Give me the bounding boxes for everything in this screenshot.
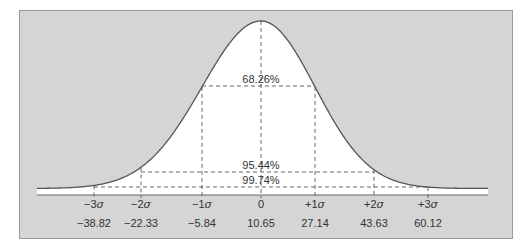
- value-tick-label: −38.82: [77, 217, 111, 229]
- sigma-tick-label: 0: [258, 198, 264, 210]
- value-tick-label: 60.12: [414, 217, 442, 229]
- value-tick-label: −22.33: [124, 217, 158, 229]
- sigma-tick-label: +3σ: [418, 198, 438, 211]
- sigma-tick-label: +2σ: [364, 198, 384, 211]
- value-tick-label: 10.65: [247, 217, 275, 229]
- sigma-tick-label: −1σ: [192, 198, 212, 211]
- value-tick-label: 43.63: [360, 217, 388, 229]
- value-tick-label: 27.14: [301, 217, 329, 229]
- value-tick-label: −5.84: [188, 217, 216, 229]
- normal-curve-plot: [0, 0, 525, 249]
- sigma-tick-label: +1σ: [305, 198, 325, 211]
- band-percentage-label: 99.74%: [242, 175, 279, 186]
- sigma-tick-label: −2σ: [131, 198, 151, 211]
- band-percentage-label: 95.44%: [242, 160, 279, 171]
- band-percentage-label: 68.26%: [242, 74, 279, 85]
- sigma-tick-label: −3σ: [84, 198, 104, 211]
